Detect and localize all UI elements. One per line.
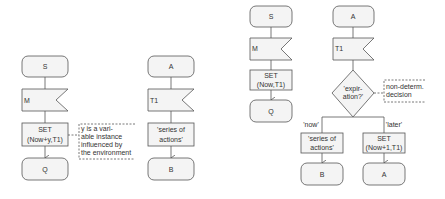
- input-label: M: [24, 97, 30, 104]
- comment-line-3: influenced by: [81, 141, 123, 149]
- task-line-1: SET: [38, 126, 52, 133]
- decision-line-1: 'expir-: [344, 85, 364, 93]
- comment-line-2: able instance: [81, 133, 122, 140]
- branch-now-label: 'now': [303, 121, 319, 128]
- start-label: S: [269, 13, 274, 20]
- left-task-line-2: actions': [310, 144, 334, 151]
- diagram-2: [148, 56, 194, 180]
- task-line-2: (Now,T1): [257, 81, 285, 89]
- end-label: B: [169, 166, 174, 173]
- start-label: S: [43, 63, 48, 70]
- input-label: T1: [150, 97, 158, 104]
- comment-line-1: non-determ.: [386, 83, 424, 90]
- left-task-line-1: 'series of: [308, 135, 336, 142]
- input-label: T1: [335, 45, 343, 52]
- branch-later-label: 'later': [386, 121, 402, 128]
- decision-line-2: ation?': [343, 93, 363, 100]
- right-task-line-1: SET: [377, 135, 391, 142]
- right-end-label: A: [382, 171, 387, 178]
- right-task-line-2: (Now+1,T1): [366, 144, 403, 152]
- end-label: Q: [268, 108, 274, 116]
- task-line-1: SET: [264, 72, 278, 79]
- sdl-diagrams: S M SET (Now+y,T1) Q y is a vari- able i…: [0, 0, 445, 199]
- start-label: A: [169, 63, 174, 70]
- diagram-1: [22, 56, 135, 180]
- comment-line-4: the environment: [81, 149, 131, 156]
- left-end-label: B: [320, 171, 325, 178]
- task-line-1: 'series of: [157, 126, 185, 133]
- start-label: A: [351, 13, 356, 20]
- end-label: Q: [42, 166, 48, 174]
- comment-line-1: y is a vari-: [81, 125, 114, 133]
- input-label: M: [252, 45, 258, 52]
- task-line-2: actions': [159, 136, 183, 143]
- task-line-2: (Now+y,T1): [27, 136, 63, 144]
- comment-line-2: decision: [386, 91, 412, 98]
- diagram-3: [250, 6, 292, 122]
